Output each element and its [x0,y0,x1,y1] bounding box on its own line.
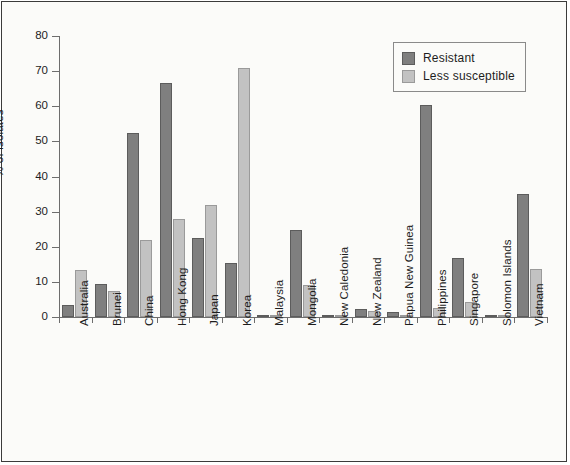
bar-group [287,36,320,317]
x-tick [417,317,418,323]
bar-resistant [160,83,172,317]
legend-item-less-susceptible: Less susceptible [402,67,515,85]
x-tick [124,317,125,323]
y-tick [52,247,59,248]
bar-resistant [127,133,139,317]
bar-resistant [452,258,464,317]
x-tick-label: Malaysia [273,280,285,326]
x-tick-label: New Zealand [371,257,383,326]
bar-resistant [355,309,367,317]
y-tick [52,177,59,178]
chart-legend: Resistant Less susceptible [393,42,526,92]
x-tick-label: Japan [208,294,220,326]
bar-group [124,36,157,317]
x-tick-label: China [143,295,155,326]
x-tick [384,317,385,323]
bar-resistant [322,315,334,317]
y-tick [52,36,59,37]
bar-resistant [517,194,529,317]
x-tick [92,317,93,323]
y-tick-label: 30 [14,205,48,217]
bar-resistant [485,315,497,317]
bar-resistant [192,238,204,317]
x-tick [222,317,223,323]
x-tick [449,317,450,323]
y-tick [52,71,59,72]
x-tick [254,317,255,323]
y-tick-label: 0 [14,310,48,322]
x-tick [59,317,60,323]
y-tick [52,212,59,213]
y-tick [52,106,59,107]
bar-group [189,36,222,317]
y-tick [52,141,59,142]
y-tick-label: 70 [14,64,48,76]
x-tick [352,317,353,323]
x-tick-label: Korea [241,295,253,326]
bar-resistant [62,305,74,317]
x-tick [514,317,515,323]
legend-swatch-less-susceptible-icon [402,70,415,83]
y-tick-label: 60 [14,99,48,111]
y-tick-label: 10 [14,275,48,287]
figure-frame: % of isolates 01020304050607080 Australi… [1,1,567,462]
bar-resistant [95,284,107,317]
y-tick-label: 80 [14,29,48,41]
y-tick [52,317,59,318]
x-tick-label: New Caledonia [338,247,350,326]
bar-resistant [420,105,432,318]
legend-label-resistant: Resistant [423,51,475,65]
x-tick [482,317,483,323]
x-tick-label: Hong Kong [176,268,188,326]
x-tick [189,317,190,323]
bar-resistant [225,263,237,317]
y-tick [52,282,59,283]
x-tick [287,317,288,323]
x-tick [157,317,158,323]
x-tick-label: Vietnam [533,283,545,326]
legend-item-resistant: Resistant [402,49,515,67]
x-tick [547,317,548,323]
x-tick-label: Papua New Guinea [403,225,415,326]
legend-label-less-susceptible: Less susceptible [423,69,515,83]
y-axis-title: % of isolates [0,109,5,177]
bar-resistant [257,315,269,317]
x-tick-label: Australia [78,280,90,326]
bar-group [254,36,287,317]
bar-resistant [387,312,399,317]
y-tick-label: 50 [14,134,48,146]
x-tick-label: Philippines [436,269,448,326]
bar-group [59,36,92,317]
x-tick-label: Brunei [111,292,123,326]
bar-less-susceptible [238,68,250,317]
bar-resistant [290,230,302,317]
bar-group [92,36,125,317]
y-tick-label: 40 [14,170,48,182]
legend-swatch-resistant-icon [402,52,415,65]
x-tick-label: Mongolia [306,279,318,326]
x-tick [319,317,320,323]
y-tick-label: 20 [14,240,48,252]
x-tick-label: Singapore [468,273,480,326]
bar-group [222,36,255,317]
x-tick-label: Solomon Islands [501,239,513,326]
